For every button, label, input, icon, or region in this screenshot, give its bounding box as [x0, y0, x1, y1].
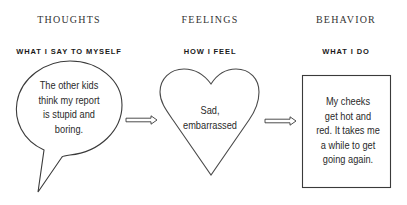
feelings-subtitle: HOW I FEEL [145, 47, 275, 56]
feelings-title: FEELINGS [150, 14, 270, 25]
behavior-line: get hot and [306, 109, 390, 124]
behavior-subtitle: WHAT I DO [281, 47, 407, 56]
arrow-right-icon [126, 116, 157, 124]
thoughts-text: The other kids think my report is stupid… [17, 78, 121, 136]
feelings-text: Sad, embarrassed [166, 103, 254, 132]
thoughts-line: is stupid and [17, 107, 121, 122]
behavior-title: BEHAVIOR [286, 14, 406, 25]
behavior-line: a while to get [306, 138, 390, 153]
behavior-line: My cheeks [306, 94, 390, 109]
thoughts-line: think my report [17, 93, 121, 108]
thoughts-subtitle: WHAT I SAY TO MYSELF [4, 47, 134, 56]
behavior-line: red. It takes me [306, 123, 390, 138]
arrow-right-icon [265, 117, 296, 125]
behavior-text: My cheeks get hot and red. It takes me a… [306, 94, 390, 167]
thoughts-line: The other kids [17, 78, 121, 93]
behavior-line: going again. [306, 152, 390, 167]
thoughts-line: boring. [17, 122, 121, 137]
feelings-line: Sad, [166, 103, 254, 118]
feelings-line: embarrassed [166, 118, 254, 133]
thoughts-title: THOUGHTS [9, 14, 129, 25]
